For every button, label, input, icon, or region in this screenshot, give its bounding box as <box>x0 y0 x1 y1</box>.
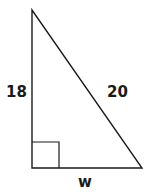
right-angle-marker <box>32 142 59 168</box>
triangle-diagram: 18 20 w <box>0 0 144 195</box>
hypotenuse-label: 20 <box>107 83 128 101</box>
vertical-leg-label: 18 <box>6 83 27 101</box>
horizontal-leg-label: w <box>78 173 92 191</box>
